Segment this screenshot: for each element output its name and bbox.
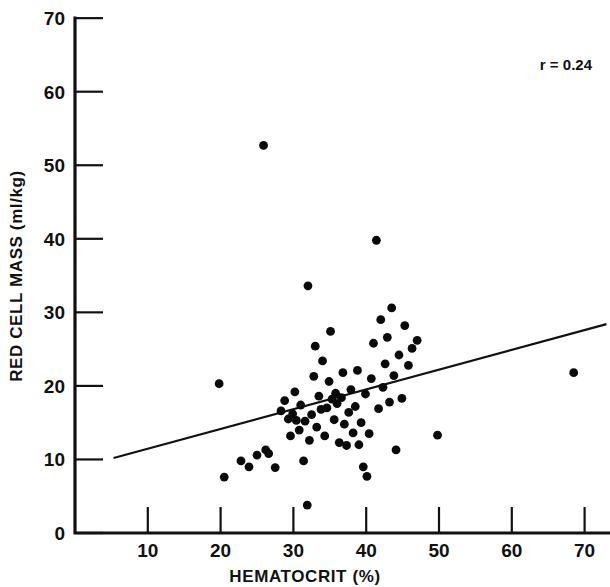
data-point	[320, 432, 329, 441]
data-point	[292, 416, 301, 425]
axis-lines	[75, 18, 610, 533]
y-tick-label: 30	[44, 302, 65, 323]
data-point	[318, 356, 327, 365]
data-point	[304, 281, 313, 290]
x-tick-label: 40	[356, 540, 377, 561]
data-point	[404, 361, 413, 370]
y-tick-label: 50	[44, 155, 65, 176]
x-tick-label: 10	[137, 540, 158, 561]
data-point	[325, 377, 334, 386]
x-axis-tick-labels: 10203040506070	[137, 540, 595, 561]
data-point	[245, 462, 254, 471]
data-point	[237, 457, 246, 466]
y-axis-ticks	[75, 18, 103, 533]
data-point	[569, 368, 578, 377]
data-point	[347, 385, 356, 394]
x-axis-ticks	[148, 507, 585, 533]
data-point	[286, 432, 295, 441]
x-tick-label: 20	[210, 540, 231, 561]
data-point	[326, 327, 335, 336]
y-axis-title: RED CELL MASS (ml/kg)	[7, 170, 26, 382]
scatter-chart: 010203040506070 10203040506070 RED CELL …	[0, 0, 610, 587]
x-tick-label: 30	[283, 540, 304, 561]
regression-line	[114, 324, 607, 458]
data-point	[392, 445, 401, 454]
data-point	[264, 449, 273, 458]
data-point	[389, 371, 398, 380]
data-point	[220, 473, 229, 482]
y-tick-label: 10	[44, 449, 65, 470]
data-point	[349, 429, 358, 438]
data-point	[299, 457, 308, 466]
y-tick-label: 0	[54, 523, 65, 544]
y-tick-label: 40	[44, 229, 65, 250]
data-point	[311, 342, 320, 351]
data-point	[372, 236, 381, 245]
data-point	[367, 374, 376, 383]
data-point	[387, 304, 396, 313]
data-point	[330, 415, 339, 424]
data-point	[253, 451, 262, 460]
x-tick-label: 50	[428, 540, 449, 561]
y-axis-tick-labels: 010203040506070	[44, 8, 65, 544]
data-point	[408, 344, 417, 353]
data-point	[397, 394, 406, 403]
y-tick-label: 60	[44, 82, 65, 103]
data-point	[351, 402, 360, 411]
data-point	[337, 393, 346, 402]
data-point	[301, 417, 310, 426]
x-axis-title: HEMATOCRIT (%)	[229, 567, 380, 586]
data-point	[381, 359, 390, 368]
y-tick-label: 70	[44, 8, 65, 29]
data-point	[305, 436, 314, 445]
data-point	[433, 431, 442, 440]
data-point	[400, 321, 409, 330]
data-point	[303, 501, 312, 510]
chart-canvas: 010203040506070 10203040506070 RED CELL …	[0, 0, 610, 587]
data-point	[314, 392, 323, 401]
data-point	[309, 372, 318, 381]
data-point	[374, 404, 383, 413]
data-point	[363, 472, 372, 481]
data-point	[322, 404, 331, 413]
x-tick-label: 60	[501, 540, 522, 561]
data-point	[379, 383, 388, 392]
data-point	[395, 351, 404, 360]
x-tick-label: 70	[574, 540, 595, 561]
data-point	[296, 401, 305, 410]
axes-group	[75, 18, 610, 533]
data-point	[307, 410, 316, 419]
data-point	[361, 390, 370, 399]
data-point	[413, 336, 422, 345]
data-point	[339, 368, 348, 377]
data-point	[277, 407, 286, 416]
data-point	[376, 315, 385, 324]
data-point	[340, 420, 349, 429]
correlation-annotation: r = 0.24	[540, 56, 593, 73]
data-point	[312, 423, 321, 432]
data-point	[353, 366, 362, 375]
data-point	[280, 396, 289, 405]
data-point	[357, 418, 366, 427]
data-point	[295, 426, 304, 435]
data-point	[271, 463, 280, 472]
data-points-group	[215, 141, 578, 509]
data-point	[369, 339, 378, 348]
data-point	[259, 141, 268, 150]
data-point	[383, 333, 392, 342]
data-point	[290, 387, 299, 396]
data-point	[355, 440, 364, 449]
data-point	[359, 462, 368, 471]
data-point	[215, 379, 224, 388]
data-point	[385, 398, 394, 407]
y-tick-label: 20	[44, 376, 65, 397]
data-point	[365, 429, 374, 438]
data-point	[344, 408, 353, 417]
data-point	[342, 441, 351, 450]
